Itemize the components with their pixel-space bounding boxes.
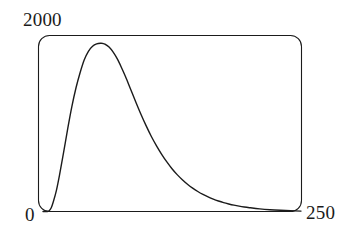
chart-figure: 2000 0 250: [0, 0, 351, 241]
x-axis-min-label: 0: [25, 205, 35, 224]
x-axis-max-label: 250: [306, 203, 335, 222]
y-axis-max-label: 2000: [23, 10, 62, 29]
plot-canvas: [0, 0, 351, 241]
